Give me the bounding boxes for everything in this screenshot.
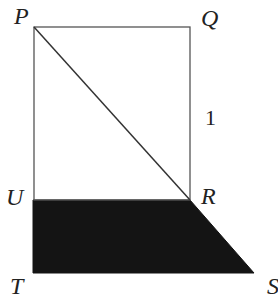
label-p: P [13, 3, 29, 29]
label-u: U [6, 184, 25, 210]
label-t: T [10, 273, 25, 299]
geometry-diagram: P Q 1 U R T S [0, 0, 278, 300]
diagonal-pr [34, 27, 190, 200]
shaded-trapezoid-urst [33, 200, 254, 273]
label-r: R [200, 183, 216, 209]
label-s: S [267, 273, 278, 299]
label-side-length: 1 [205, 105, 216, 130]
label-q: Q [201, 5, 218, 31]
